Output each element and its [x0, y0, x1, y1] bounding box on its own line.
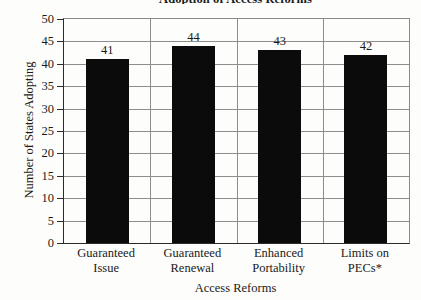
bar-value-label: 41 — [101, 44, 114, 57]
y-axis-tick-label: 5 — [48, 213, 54, 229]
y-axis-tick-label: 25 — [42, 123, 55, 139]
y-axis-tick-label: 10 — [42, 190, 55, 206]
y-axis-title: Number of States Adopting — [22, 18, 38, 242]
y-axis-tick — [57, 41, 64, 42]
bar-value-label: 43 — [273, 35, 286, 48]
y-axis-tick — [57, 64, 64, 65]
bar: 43 — [258, 50, 301, 243]
y-axis-tick-label: 40 — [42, 56, 55, 72]
y-axis-tick — [57, 109, 64, 110]
y-axis-tick — [57, 131, 64, 132]
y-axis-tick — [57, 176, 64, 177]
plot-area: 0510152025303540455041444342 — [63, 18, 410, 244]
y-axis-tick-label: 35 — [42, 78, 55, 94]
x-axis-category-label-line: Limits on — [322, 246, 408, 261]
x-axis-category-label-line: Renewal — [149, 261, 235, 276]
x-axis-category-label: GuaranteedIssue — [63, 246, 149, 276]
category-divider — [237, 19, 238, 243]
x-axis-category-label: EnhancedPortability — [236, 246, 322, 276]
chart-title: Adoption of Access Reforms — [63, 0, 408, 4]
y-axis-tick — [57, 243, 64, 244]
category-divider — [150, 19, 151, 243]
y-axis-tick — [57, 198, 64, 199]
x-axis-category-label-line: Issue — [63, 261, 149, 276]
bar: 41 — [86, 59, 129, 243]
y-axis-tick-label: 45 — [42, 33, 55, 49]
x-axis-category-label-line: Enhanced — [236, 246, 322, 261]
x-axis-category-label: GuaranteedRenewal — [149, 246, 235, 276]
y-axis-tick-label: 20 — [42, 145, 55, 161]
bar-chart-figure: Adoption of Access Reforms Number of Sta… — [0, 0, 421, 300]
y-axis-tick — [57, 221, 64, 222]
y-axis-tick — [57, 19, 64, 20]
bar-value-label: 44 — [187, 31, 200, 44]
category-divider — [323, 19, 324, 243]
y-axis-tick-label: 50 — [42, 11, 55, 27]
y-axis-tick — [57, 86, 64, 87]
bar: 44 — [172, 46, 215, 243]
x-axis-category-label: Limits onPECs* — [322, 246, 408, 276]
x-axis-title: Access Reforms — [63, 281, 408, 296]
bar: 42 — [344, 55, 387, 243]
y-axis-tick-label: 0 — [48, 235, 54, 251]
y-axis-tick-label: 15 — [42, 168, 55, 184]
x-axis-category-label-line: Guaranteed — [149, 246, 235, 261]
y-axis-tick — [57, 153, 64, 154]
bar-value-label: 42 — [360, 40, 373, 53]
y-axis-tick-label: 30 — [42, 101, 55, 117]
x-axis-category-label-line: Guaranteed — [63, 246, 149, 261]
x-axis-category-label-line: Portability — [236, 261, 322, 276]
x-axis-category-label-line: PECs* — [322, 261, 408, 276]
